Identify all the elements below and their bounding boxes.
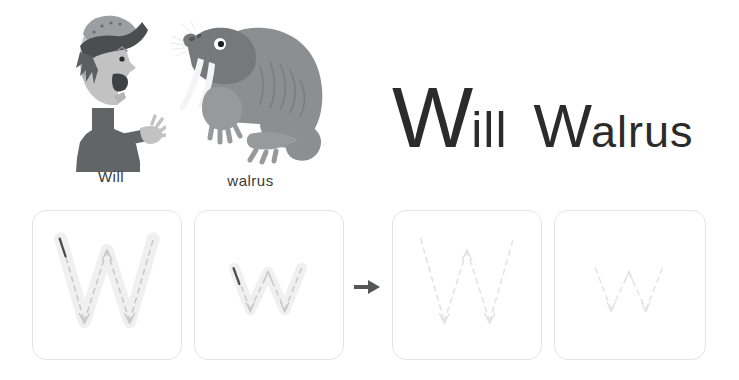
walrus-illustration — [168, 14, 333, 169]
page-title: WillWalrus — [392, 78, 732, 178]
trace-box-uppercase-filled[interactable] — [32, 210, 182, 360]
boy-illustration — [56, 12, 166, 172]
progression-arrow-icon — [352, 277, 382, 297]
title-word1-rest: ill — [471, 102, 507, 158]
trace-box-lowercase-outline[interactable] — [554, 210, 706, 360]
worksheet-page: Will — [0, 0, 739, 380]
title-word1-capital: W — [392, 69, 471, 165]
trace-exercise-row — [0, 205, 739, 370]
walrus-caption: walrus — [168, 172, 333, 189]
boy-caption: Will — [56, 168, 166, 185]
illustration-row: Will — [0, 0, 370, 200]
trace-box-uppercase-outline[interactable] — [392, 210, 542, 360]
trace-box-lowercase-filled[interactable] — [194, 210, 344, 360]
title-word2-capital: W — [534, 91, 592, 160]
title-word2-rest: alrus — [591, 106, 694, 157]
